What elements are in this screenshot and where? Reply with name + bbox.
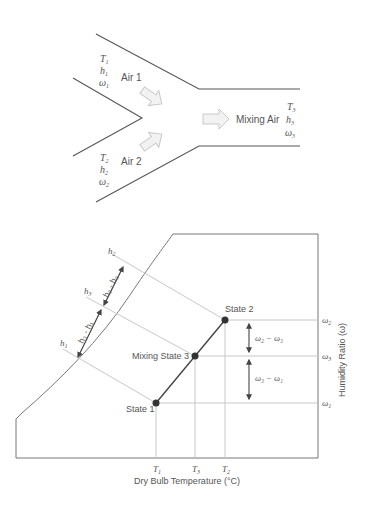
w3-w1-label: ω₃ − ω₁ bbox=[255, 373, 283, 383]
flow-arrow-mixing-icon bbox=[203, 109, 229, 129]
flow-arrow-air2-icon bbox=[137, 127, 167, 156]
flow-arrow-air1-icon bbox=[137, 83, 167, 112]
duct-wall-divider bbox=[73, 78, 142, 156]
state1-label: State 1 bbox=[126, 404, 155, 414]
h3-tick: h3 bbox=[84, 286, 92, 297]
t1-tick: T1 bbox=[153, 464, 161, 475]
inlet2-enthalpy-label: h2 bbox=[100, 164, 108, 176]
outlet-temp-label: T3 bbox=[287, 101, 296, 113]
state3-point bbox=[192, 353, 199, 360]
inlet2-label: Air 2 bbox=[121, 156, 142, 167]
psychrometric-chart: h₂ - h₃ h₃ - h₁ h2 h3 h1 State 1 Mixing … bbox=[16, 234, 347, 486]
inlet2-temp-label: T2 bbox=[100, 152, 109, 164]
h2-tick: h2 bbox=[108, 246, 116, 257]
inlet2-humidity-label: ω2 bbox=[99, 176, 109, 188]
outlet-enthalpy-label: h3 bbox=[286, 114, 294, 126]
h2-h3-label: h₂ - h₃ bbox=[101, 273, 120, 299]
state3-label: Mixing State 3 bbox=[132, 351, 189, 361]
outlet-humidity-label: ω3 bbox=[285, 127, 295, 139]
t3-tick: T3 bbox=[192, 464, 200, 475]
inlet1-label: Air 1 bbox=[121, 72, 142, 83]
inlet1-temp-label: T1 bbox=[100, 53, 109, 65]
state2-point bbox=[222, 317, 229, 324]
omega1-tick: ω1 bbox=[322, 398, 331, 409]
w2-w3-label: ω₂ − ω₃ bbox=[255, 333, 283, 343]
omega2-tick: ω2 bbox=[322, 315, 331, 326]
mixing-duct: T1 h1 ω1 Air 1 T2 h2 ω2 Air 2 Mixing Air… bbox=[73, 34, 300, 202]
state2-label: State 2 bbox=[225, 304, 254, 314]
omega3-tick: ω3 bbox=[322, 351, 331, 362]
t2-tick: T2 bbox=[222, 464, 230, 475]
mixing-process-line bbox=[156, 320, 225, 403]
inlet1-enthalpy-label: h1 bbox=[100, 65, 108, 77]
diagram-canvas: T1 h1 ω1 Air 1 T2 h2 ω2 Air 2 Mixing Air… bbox=[0, 0, 367, 507]
outlet-label: Mixing Air bbox=[236, 114, 280, 125]
h1-tick: h1 bbox=[60, 338, 68, 349]
h3-h1-label: h₃ - h₁ bbox=[76, 319, 95, 344]
h3-guide bbox=[86, 297, 195, 356]
x-axis-label: Dry Bulb Temperature (°C) bbox=[134, 476, 240, 486]
inlet1-humidity-label: ω1 bbox=[99, 77, 109, 89]
h2-guide bbox=[112, 254, 225, 320]
duct-wall-bottom bbox=[96, 146, 300, 202]
y-axis-label: Humidity Ratio (ω) bbox=[337, 323, 347, 397]
